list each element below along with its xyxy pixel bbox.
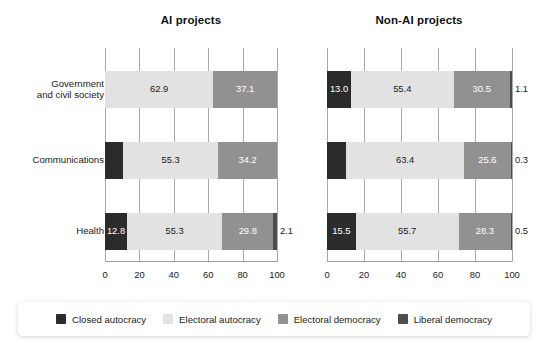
legend-swatch-icon xyxy=(56,314,66,324)
x-tick-label-20: 20 xyxy=(124,269,154,280)
bar-value-label: 15.5 xyxy=(332,226,350,235)
x-tick-label-0: 0 xyxy=(312,269,342,280)
bar-segment-closed-autocracy: 12.8 xyxy=(105,213,127,250)
x-tick-label-40: 40 xyxy=(159,269,189,280)
bar-segment-electoral-autocracy: 55.3 xyxy=(127,213,222,250)
x-tick-label-40: 40 xyxy=(386,269,416,280)
bar-value-label: 12.8 xyxy=(107,226,125,235)
bar-row-0-1: 55.334.2 xyxy=(105,142,277,179)
bar-segment-liberal-democracy xyxy=(510,71,512,108)
legend-item-3[interactable]: Liberal democracy xyxy=(398,314,492,325)
x-tick-label-80: 80 xyxy=(460,269,490,280)
bar-value-label: 55.3 xyxy=(161,155,179,164)
panel-title-0: AI projects xyxy=(101,14,281,26)
bar-segment-liberal-democracy xyxy=(511,142,512,179)
bar-value-label-outside: 0.5 xyxy=(515,226,528,235)
category-label-0: Government and civil society xyxy=(0,78,104,101)
category-label-2: Health xyxy=(0,225,104,237)
bar-segment-closed-autocracy xyxy=(327,142,346,179)
bar-value-label: 55.3 xyxy=(165,226,183,235)
bar-segment-electoral-democracy: 30.5 xyxy=(454,71,510,108)
x-tick-label-0: 0 xyxy=(90,269,120,280)
x-tick-label-60: 60 xyxy=(423,269,453,280)
x-tick-label-100: 100 xyxy=(262,269,292,280)
bar-value-label: 28.3 xyxy=(476,226,494,235)
bar-value-label: 34.2 xyxy=(238,155,256,164)
bar-segment-closed-autocracy: 15.5 xyxy=(327,213,356,250)
bar-row-1-1: 63.425.6 xyxy=(327,142,512,179)
bar-value-label: 25.6 xyxy=(478,155,496,164)
legend-swatch-icon xyxy=(163,314,173,324)
chart-legend: Closed autocracyElectoral autocracyElect… xyxy=(18,302,530,336)
bar-segment-electoral-autocracy: 62.9 xyxy=(105,71,213,108)
bar-value-label: 37.1 xyxy=(236,84,254,93)
bar-row-0-2: 12.855.329.8 xyxy=(105,213,277,250)
bar-segment-electoral-democracy: 34.2 xyxy=(218,142,277,179)
bar-segment-electoral-democracy: 28.3 xyxy=(459,213,511,250)
bar-row-0-0: 62.937.1 xyxy=(105,71,277,108)
bar-value-label: 62.9 xyxy=(150,84,168,93)
bar-segment-electoral-democracy: 37.1 xyxy=(213,71,277,108)
bar-segment-liberal-democracy xyxy=(511,213,512,250)
bar-segment-electoral-autocracy: 55.3 xyxy=(123,142,218,179)
bar-value-label: 29.8 xyxy=(239,226,257,235)
bar-segment-liberal-democracy xyxy=(273,213,277,250)
bar-segment-electoral-autocracy: 55.7 xyxy=(356,213,459,250)
legend-item-2[interactable]: Electoral democracy xyxy=(278,314,381,325)
x-tick-label-80: 80 xyxy=(228,269,258,280)
x-tick-label-20: 20 xyxy=(349,269,379,280)
bar-row-1-0: 13.055.430.5 xyxy=(327,71,512,108)
bar-row-1-2: 15.555.728.3 xyxy=(327,213,512,250)
gridline-100 xyxy=(512,48,513,262)
legend-label: Electoral democracy xyxy=(294,314,381,325)
x-tick-label-60: 60 xyxy=(193,269,223,280)
bar-value-label-outside: 0.3 xyxy=(515,155,528,164)
bar-segment-electoral-autocracy: 63.4 xyxy=(346,142,463,179)
bar-value-label: 30.5 xyxy=(473,84,491,93)
category-label-1: Communications xyxy=(0,154,104,166)
legend-label: Liberal democracy xyxy=(414,314,492,325)
bar-value-label: 13.0 xyxy=(330,84,348,93)
bar-value-label: 63.4 xyxy=(396,155,414,164)
bar-value-label-outside: 2.1 xyxy=(280,226,293,235)
bar-segment-electoral-democracy: 25.6 xyxy=(464,142,511,179)
x-axis-line-0 xyxy=(105,261,277,262)
panel-title-1: Non-AI projects xyxy=(329,14,509,26)
legend-swatch-icon xyxy=(398,314,408,324)
bar-segment-closed-autocracy: 13.0 xyxy=(327,71,351,108)
legend-label: Electoral autocracy xyxy=(179,314,261,325)
bar-value-label: 55.7 xyxy=(398,226,416,235)
bar-value-label: 55.4 xyxy=(393,84,411,93)
bar-segment-electoral-democracy: 29.8 xyxy=(222,213,273,250)
bar-segment-closed-autocracy xyxy=(105,142,123,179)
legend-swatch-icon xyxy=(278,314,288,324)
gridline-100 xyxy=(277,48,278,262)
chart-canvas: Government and civil societyCommunicatio… xyxy=(0,0,548,359)
x-tick-label-100: 100 xyxy=(497,269,527,280)
bar-segment-electoral-autocracy: 55.4 xyxy=(351,71,453,108)
legend-item-1[interactable]: Electoral autocracy xyxy=(163,314,261,325)
bar-value-label-outside: 1.1 xyxy=(515,84,528,93)
x-axis-line-1 xyxy=(327,261,512,262)
legend-label: Closed autocracy xyxy=(72,314,146,325)
legend-item-0[interactable]: Closed autocracy xyxy=(56,314,146,325)
